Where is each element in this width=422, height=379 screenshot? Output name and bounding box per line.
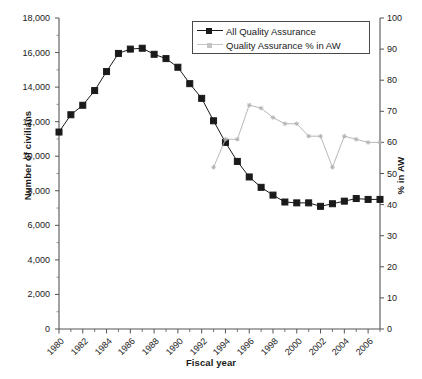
legend-marker-star-icon bbox=[197, 39, 223, 51]
y-axis-right-tick-label: 90 bbox=[387, 44, 422, 54]
y-axis-right-tick-label: 40 bbox=[387, 200, 422, 210]
y-axis-right-tick-label: 30 bbox=[387, 231, 422, 241]
y-axis-right-tick-label: 70 bbox=[387, 106, 422, 116]
chart-container: Number of civilians % in AW Fiscal year … bbox=[0, 0, 422, 379]
y-axis-left-tick-label: 6,000 bbox=[0, 220, 50, 230]
legend-label: Quality Assurance % in AW bbox=[226, 40, 341, 51]
legend-item-all-quality-assurance: All Quality Assurance bbox=[197, 24, 365, 38]
y-axis-left-tick-label: 10,000 bbox=[0, 151, 50, 161]
y-axis-right-tick-label: 10 bbox=[387, 293, 422, 303]
axis-lines bbox=[59, 18, 380, 329]
y-axis-right-tick-label: 0 bbox=[387, 324, 422, 334]
legend-item-quality-assurance-pct: Quality Assurance % in AW bbox=[197, 38, 365, 52]
chart-plot-area bbox=[0, 0, 422, 379]
y-axis-right-tick-label: 60 bbox=[387, 137, 422, 147]
y-axis-right-tick-label: 100 bbox=[387, 13, 422, 23]
y-axis-left-tick-label: 8,000 bbox=[0, 186, 50, 196]
y-axis-left-tick-label: 16,000 bbox=[0, 48, 50, 58]
chart-legend: All Quality Assurance Quality Assurance … bbox=[192, 21, 370, 54]
legend-marker-square-icon bbox=[197, 25, 223, 37]
y-axis-right-tick-label: 20 bbox=[387, 262, 422, 272]
y-axis-left-tick-label: 14,000 bbox=[0, 82, 50, 92]
y-axis-left-tick-label: 2,000 bbox=[0, 289, 50, 299]
y-axis-left-tick-label: 4,000 bbox=[0, 255, 50, 265]
y-axis-left-tick-label: 12,000 bbox=[0, 117, 50, 127]
axis-ticks bbox=[55, 18, 384, 334]
legend-label: All Quality Assurance bbox=[226, 26, 316, 37]
data-series-group bbox=[56, 45, 383, 209]
y-axis-left-tick-label: 18,000 bbox=[0, 13, 50, 23]
y-axis-right-tick-label: 50 bbox=[387, 169, 422, 179]
y-axis-right-tick-label: 80 bbox=[387, 75, 422, 85]
y-axis-left-tick-label: 0 bbox=[0, 324, 50, 334]
